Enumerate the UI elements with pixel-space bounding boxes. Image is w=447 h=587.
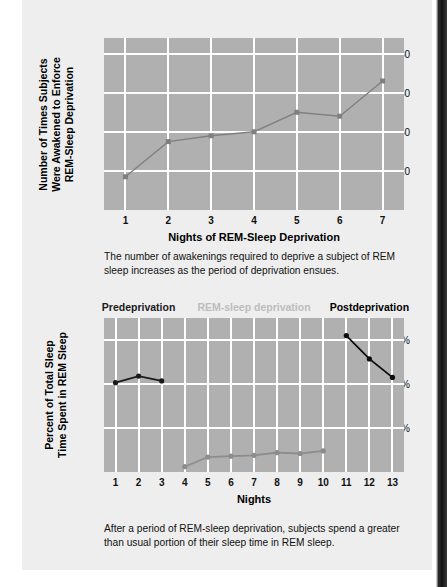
x-axis-tick-label: 6 (337, 215, 343, 226)
x-axis-tick-label: 1 (113, 477, 119, 488)
chart-top-y-axis-title: Number of Times SubjectsWere Awakened to… (37, 18, 76, 230)
y-axis-title-line: Time Spent in REM Sleep (56, 298, 69, 492)
x-axis-tick-label: 2 (136, 477, 142, 488)
data-point-marker (321, 448, 326, 453)
x-axis-tick-label: 1 (123, 215, 129, 226)
data-point-marker (390, 375, 395, 380)
x-axis-tick-label: 2 (166, 215, 172, 226)
data-point-marker (337, 114, 342, 119)
y-axis-title-line: REM-Sleep Deprivation (62, 18, 75, 230)
y-axis-title-line: Percent of Total Sleep (43, 298, 56, 492)
chart-bottom-plot-area (104, 318, 404, 472)
data-point-marker (344, 333, 349, 338)
x-axis-tick-label: 5 (205, 477, 211, 488)
data-point-marker (251, 453, 256, 458)
x-axis-tick-label: 7 (380, 215, 386, 226)
data-point-marker (252, 129, 257, 134)
data-point-marker (166, 139, 171, 144)
segment-label: Predeprivation (102, 301, 176, 313)
chart-top-plot-area (104, 38, 404, 210)
x-axis-tick-label: 5 (294, 215, 300, 226)
data-point-marker (159, 378, 164, 383)
x-axis-tick-label: 6 (228, 477, 234, 488)
page-root: Number of Times SubjectsWere Awakened to… (0, 0, 447, 587)
data-point-marker (274, 450, 279, 455)
data-point-marker (209, 133, 214, 138)
x-axis-tick-label: 12 (364, 477, 375, 488)
y-axis-title-line: Were Awakened to Enforce (49, 18, 62, 230)
data-point-marker (228, 454, 233, 459)
data-point-marker (298, 451, 303, 456)
x-axis-tick-label: 4 (251, 215, 257, 226)
data-point-marker (380, 79, 385, 84)
x-axis-tick-label: 11 (341, 477, 352, 488)
chart-top-x-axis-title: Nights of REM-Sleep Deprivation (104, 231, 404, 243)
x-axis-tick-label: 8 (274, 477, 280, 488)
x-axis-tick-label: 7 (251, 477, 257, 488)
data-point-marker (113, 380, 118, 385)
figure-top-caption: The number of awakenings required to dep… (104, 250, 404, 277)
x-axis-tick-label: 3 (159, 477, 165, 488)
x-axis-tick-label: 10 (318, 477, 329, 488)
data-point-marker (123, 174, 128, 179)
data-point-marker (182, 464, 187, 469)
x-axis-tick-label: 3 (208, 215, 214, 226)
data-point-marker (136, 373, 141, 378)
series-layer (104, 38, 404, 210)
x-axis-tick-label: 13 (387, 477, 398, 488)
series-layer (104, 318, 404, 472)
data-point-marker (205, 454, 210, 459)
page-edge-strip (436, 0, 447, 587)
data-point-marker (367, 356, 372, 361)
data-point-marker (294, 110, 299, 115)
chart-bottom-y-axis-title: Percent of Total SleepTime Spent in REM … (43, 298, 69, 492)
y-axis-title-line: Number of Times Subjects (37, 18, 50, 230)
series-line (125, 81, 382, 177)
segment-label: REM-sleep deprivation (197, 301, 310, 313)
figure-bottom-caption: After a period of REM-sleep deprivation,… (104, 522, 404, 549)
segment-label: Postdeprivation (330, 301, 409, 313)
x-axis-tick-label: 4 (182, 477, 188, 488)
chart-bottom-x-axis-title: Nights (104, 493, 404, 505)
x-axis-tick-label: 9 (297, 477, 303, 488)
